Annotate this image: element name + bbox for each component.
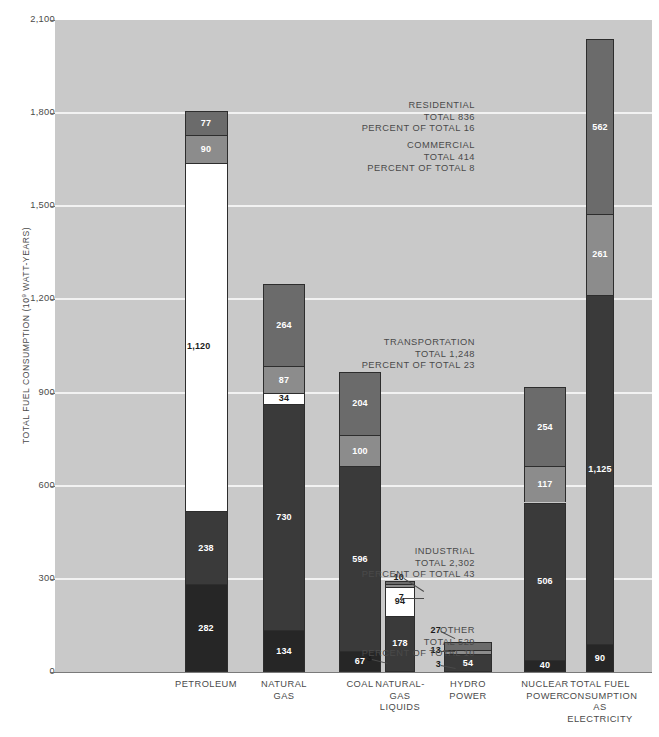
bar-segment-value: 100 [352,447,368,456]
gridline [55,112,652,114]
bar-segment-commercial[interactable]: 90 [185,135,228,163]
bar-segment-value: 77 [201,119,211,128]
sector-annotation-industrial: INDUSTRIALTOTAL 2,302PERCENT OF TOTAL 43 [362,546,475,581]
bar-segment-residential[interactable]: 204 [339,372,381,435]
bar-total-fuel-consumption-as-electricity[interactable]: 901,125261562 [586,39,614,672]
sector-percent: PERCENT OF TOTAL 16 [362,123,475,135]
sector-name: RESIDENTIAL [362,100,475,112]
y-axis-tick-label: 1,200 [7,293,55,303]
bar-segment-industrial[interactable]: 730 [263,404,305,631]
bar-segment-value: 506 [537,577,553,586]
x-axis-label-line: ELECTRICITY [552,714,648,726]
bar-segment-other[interactable]: 282 [185,584,228,672]
bar-segment-value: 254 [537,423,553,432]
sector-name: INDUSTRIAL [362,546,475,558]
y-axis-tick-label: 600 [7,480,55,490]
bar-segment-residential[interactable]: 562 [586,39,614,213]
bar-segment-other[interactable]: 134 [263,630,305,672]
bar-segment-transportation[interactable]: 34 [263,393,305,404]
bar-segment-commercial[interactable]: 261 [586,214,614,295]
bar-nuclear-power[interactable]: 40506117254 [524,387,566,672]
bar-segment-other[interactable]: 40 [524,660,566,672]
sector-annotation-other: OTHERTOTAL 529PERCENT OF TOTAL 10 [362,625,475,660]
x-axis-label-line: AS [552,702,648,714]
bar-segment-industrial[interactable]: 1,125 [586,295,614,644]
sector-total: TOTAL 414 [367,152,475,164]
bar-segment-value: 40 [540,661,550,670]
sector-total: TOTAL 529 [362,637,475,649]
bar-segment-value: 87 [279,376,289,385]
petroleum-transportation-value: 1,120 [187,341,217,351]
bar-segment-residential[interactable]: 254 [524,387,566,466]
bar-segment-industrial[interactable]: 238 [185,511,228,585]
x-axis-label-total-fuel-consumption-as-electricity: TOTAL FUELCONSUMPTIONASELECTRICITY [552,679,648,725]
x-axis-label-line: LIQUIDS [352,702,448,714]
bar-segment-commercial[interactable]: 117 [524,466,566,502]
x-axis-label-line: CONSUMPTION [552,691,648,703]
bar-segment-value: 117 [537,480,552,489]
sector-name: TRANSPORTATION [362,337,475,349]
bar-segment-value: 282 [198,624,214,633]
bar-segment-value: 264 [276,321,292,330]
y-axis-tick-label: 900 [7,387,55,397]
bar-segment-commercial[interactable]: 100 [339,435,381,466]
sector-name: COMMERCIAL [367,140,475,152]
bar-segment-value: 204 [352,399,368,408]
x-axis-label-line: GAS [236,691,332,703]
bar-segment-residential[interactable]: 264 [263,284,305,366]
sector-percent: PERCENT OF TOTAL 10 [362,648,475,660]
sector-annotation-residential: RESIDENTIALTOTAL 836PERCENT OF TOTAL 16 [362,100,475,135]
sector-percent: PERCENT OF TOTAL 8 [367,163,475,175]
bar-segment-value: 261 [592,250,608,259]
bar-segment-industrial[interactable]: 506 [524,503,566,660]
callout-value: 7 [388,592,404,602]
bar-segment-residential[interactable]: 77 [185,111,228,135]
bar-segment-value: 1,125 [588,465,612,474]
sector-total: TOTAL 836 [362,112,475,124]
y-axis-tick-label: 0 [7,666,55,676]
y-axis-tick-label: 2,100 [7,14,55,24]
gridline [55,298,652,300]
bar-segment-value: 34 [279,394,289,403]
sector-total: TOTAL 2,302 [362,558,475,570]
sector-percent: PERCENT OF TOTAL 23 [362,360,475,372]
sector-percent: PERCENT OF TOTAL 43 [362,569,475,581]
y-axis-tick-group: 2,1001,8001,5001,2009006003000 [0,0,55,737]
callout-value: 3 [425,659,441,669]
bar-segment-value: 238 [198,544,214,553]
bar-segment-value: 54 [463,659,473,668]
chart-root: TOTAL FUEL CONSUMPTION (109 WATT-YEARS) … [0,0,659,737]
bar-segment-value: 90 [595,654,605,663]
y-axis-tick-label: 1,500 [7,200,55,210]
bar-segment-value: 134 [276,647,292,656]
bar-natural-gas[interactable]: 1347303487264 [263,284,305,672]
x-axis-baseline [55,672,652,673]
bar-segment-value: 730 [276,513,292,522]
sector-total: TOTAL 1,248 [362,349,475,361]
gridline [55,205,652,207]
sector-annotation-transportation: TRANSPORTATIONTOTAL 1,248PERCENT OF TOTA… [362,337,475,372]
callout-leader-line [404,598,424,599]
bar-segment-other[interactable]: 90 [586,644,614,672]
sector-name: OTHER [362,625,475,637]
bar-segment-commercial[interactable]: 87 [263,366,305,393]
bar-segment-transportation[interactable] [185,163,228,511]
bar-segment-value: 562 [592,123,608,132]
y-axis-tick-label: 1,800 [7,107,55,117]
bar-petroleum[interactable]: 2822389077 [185,111,228,672]
plot-area: 2822389077134730348726467596100204178945… [55,20,652,673]
sector-annotation-commercial: COMMERCIALTOTAL 414PERCENT OF TOTAL 8 [367,140,475,175]
bar-segment-commercial[interactable] [385,584,415,586]
y-axis-tick-label: 300 [7,573,55,583]
bar-segment-value: 90 [201,145,211,154]
x-axis-label-line: TOTAL FUEL [552,679,648,691]
